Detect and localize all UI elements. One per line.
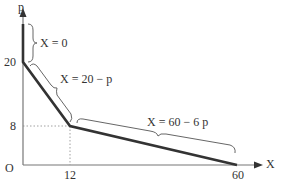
- brace-x0: [28, 24, 37, 62]
- tick-y-20: 20: [4, 56, 16, 68]
- tick-x-12: 12: [64, 169, 76, 181]
- y-axis-label: p: [18, 1, 24, 13]
- origin-label: O: [5, 162, 14, 174]
- equation-60-6p: X = 60 − 6 p: [147, 116, 208, 128]
- x-axis-arrow-icon: [254, 162, 263, 169]
- equation-20-p: X = 20 − p: [60, 73, 112, 85]
- equation-x0: X = 0: [40, 37, 67, 49]
- tick-x-60: 60: [232, 169, 244, 181]
- demand-curve-diagram: [0, 0, 282, 183]
- tick-y-8: 8: [10, 120, 16, 132]
- x-axis-label: X: [266, 158, 275, 170]
